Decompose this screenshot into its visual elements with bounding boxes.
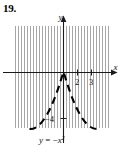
x-tick-label-2: 2 [75, 77, 79, 87]
equation-equals: = [43, 135, 53, 145]
graph-plot: x y 2 3 −4 y = −x2 [0, 0, 121, 148]
figure-container: 19. x y 2 3 −4 [0, 0, 121, 148]
y-axis-label: y [58, 12, 63, 22]
x-axis-label: x [113, 62, 118, 72]
x-tick-label-3: 3 [89, 77, 93, 87]
y-tick-label-minus4: −4 [45, 114, 55, 124]
curve-equation-label: y = −x2 [38, 135, 65, 146]
equation-exponent: 2 [62, 135, 65, 141]
